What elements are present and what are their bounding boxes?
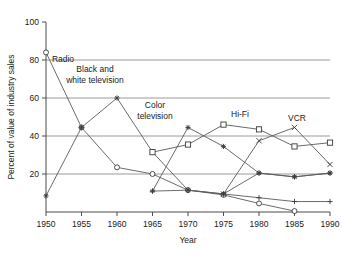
data-point-asterisk [43,193,48,198]
x-tick-label: 1950 [37,219,56,229]
y-axis-title: Percent of value of industry sales [6,54,16,179]
data-point-open-circle [150,172,155,177]
series-label: Radio [52,54,74,64]
data-point-open-circle [44,50,49,55]
x-tick-label: 1985 [285,219,304,229]
series-label-text: VCR [288,113,306,123]
x-tick-label: 1970 [179,219,198,229]
series-line [153,190,331,201]
series-label: Hi-Fi [231,109,249,119]
data-point-open-circle [257,201,262,206]
x-tick-label: 1990 [321,219,340,229]
data-point-open-square [150,150,155,155]
y-tick-label: 60 [30,93,40,103]
y-tick-label: 100 [25,17,39,27]
data-point-asterisk [79,125,84,130]
x-tick-label: 1975 [214,219,233,229]
data-point-open-square [256,127,261,132]
data-point-cross [292,125,297,130]
series-annotations: RadioBlack andwhite televisionColortelev… [52,54,306,123]
series-label-text: Radio [52,54,74,64]
y-tick-label: 20 [30,169,40,179]
chart-container: 20406080100 1950195519601965197019751980… [0,0,342,256]
series-line [153,125,331,153]
data-point-asterisk [185,125,190,130]
data-point-open-square [327,140,332,145]
series-label-text: Color [145,100,165,110]
data-point-open-square [221,122,226,127]
series-label-text: white television [65,75,124,85]
series-label: VCR [288,113,306,123]
x-tick-label: 1960 [108,219,127,229]
data-point-open-circle [115,165,120,170]
data-point-asterisk [221,144,226,149]
data-point-open-circle [292,209,297,214]
x-axis-ticks-group: 195019551960196519701975198019851990 [37,212,340,229]
series-5 [150,188,333,205]
data-point-cross [256,138,261,143]
x-tick-label: 1955 [72,219,91,229]
data-point-asterisk [292,174,297,179]
data-point-asterisk [327,170,332,175]
series-label-text: Black and [76,64,114,74]
x-axis-title: Year [179,235,196,245]
line-chart: 20406080100 1950195519601965197019751980… [0,0,342,256]
x-tick-label: 1980 [250,219,269,229]
y-tick-label: 40 [30,131,40,141]
x-tick-label: 1965 [143,219,162,229]
data-point-asterisk [256,170,261,175]
data-point-plus [292,199,297,204]
data-point-plus [256,195,261,200]
data-point-cross [327,162,332,167]
series-label-text: Hi-Fi [231,109,249,119]
data-point-open-square [185,142,190,147]
data-point-open-square [292,144,297,149]
y-tick-label: 80 [30,55,40,65]
y-axis-ticks-group: 20406080100 [25,17,46,179]
data-point-asterisk [114,95,119,100]
series-label: Black andwhite television [65,64,124,85]
series-label: Colortelevision [137,100,173,121]
series-label-text: television [137,111,173,121]
data-point-plus [327,199,332,204]
